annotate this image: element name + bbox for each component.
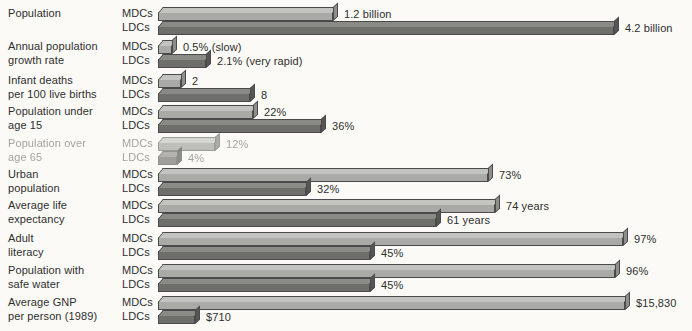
bar-front-face <box>158 269 615 278</box>
bar-end-cap <box>306 177 311 196</box>
bar-top-face <box>158 232 628 238</box>
series-label-ldcs: LDCs <box>122 21 150 35</box>
bar-mdcs <box>158 269 615 278</box>
bar-end-cap <box>195 305 200 324</box>
series-label-mdcs: MDCs <box>122 105 153 119</box>
series-label-mdcs: MDCs <box>122 40 153 54</box>
category-label: Average life expectancy <box>8 199 67 226</box>
bar-ldcs <box>158 156 177 165</box>
bar-mdcs <box>158 110 253 119</box>
series-label-mdcs: MDCs <box>122 296 153 310</box>
chart-row-annual-population-growth-rate: Annual population growth rateMDCsLDCs0.5… <box>0 39 692 71</box>
bar-top-face <box>158 137 220 143</box>
value-label-ldcs: $710 <box>206 311 231 325</box>
bar-end-cap <box>615 259 620 278</box>
category-label: Population <box>8 7 61 21</box>
bar-end-cap <box>370 273 375 292</box>
value-label-ldcs: 8 <box>261 89 267 103</box>
category-label: Population with safe water <box>8 264 84 291</box>
value-label-ldcs: 2.1% (very rapid) <box>217 55 302 69</box>
value-label-ldcs: 61 years <box>447 214 490 228</box>
bar-end-cap <box>488 163 493 182</box>
bar-top-face <box>158 119 326 125</box>
series-label-ldcs: LDCs <box>122 278 150 292</box>
bar-front-face <box>158 283 370 292</box>
bar-ldcs <box>158 187 306 196</box>
category-label: Population over age 65 <box>8 137 86 164</box>
bar-front-face <box>158 204 495 213</box>
bar-front-face <box>158 251 370 260</box>
bar-front-face <box>158 301 625 310</box>
bar-end-cap <box>625 291 630 310</box>
chart-row-infant-deaths-per-100-live-births: Infant deaths per 100 live birthsMDCsLDC… <box>0 73 692 105</box>
category-label: Population under age 15 <box>8 105 93 132</box>
chart-row-adult-literacy: Adult literacyMDCsLDCs97%45% <box>0 231 692 263</box>
bar-end-cap <box>333 2 338 21</box>
bar-ldcs <box>158 315 195 324</box>
chart-row-population: PopulationMDCsLDCs1.2 billion4.2 billion <box>0 6 692 38</box>
chart-row-urban-population: Urban populationMDCsLDCs73%32% <box>0 167 692 199</box>
bar-top-face <box>158 54 211 60</box>
value-label-ldcs: 4% <box>188 152 204 166</box>
value-label-mdcs: 1.2 billion <box>344 8 392 22</box>
bar-mdcs <box>158 12 333 21</box>
bar-front-face <box>158 315 195 324</box>
bar-ldcs <box>158 26 614 35</box>
bar-front-face <box>158 142 215 151</box>
bar-top-face <box>158 246 375 252</box>
bar-mdcs <box>158 173 488 182</box>
bar-top-face <box>158 21 619 27</box>
bar-front-face <box>158 237 623 246</box>
series-label-mdcs: MDCs <box>122 7 153 21</box>
bar-end-cap <box>495 194 500 213</box>
bar-top-face <box>158 168 493 174</box>
bar-front-face <box>158 173 488 182</box>
value-label-mdcs: $15,830 <box>636 297 676 311</box>
bar-mdcs <box>158 204 495 213</box>
bar-top-face <box>158 310 200 316</box>
series-label-ldcs: LDCs <box>122 246 150 260</box>
bar-top-face <box>158 7 338 13</box>
value-label-mdcs: 74 years <box>506 200 549 214</box>
bar-front-face <box>158 12 333 21</box>
value-label-mdcs: 2 <box>192 75 198 89</box>
value-label-ldcs: 45% <box>381 247 403 261</box>
series-label-mdcs: MDCs <box>122 199 153 213</box>
value-label-ldcs: 32% <box>317 183 339 197</box>
value-label-mdcs: 22% <box>264 106 286 120</box>
bar-end-cap <box>250 83 255 102</box>
bar-ldcs <box>158 283 370 292</box>
series-label-ldcs: LDCs <box>122 151 150 165</box>
bar-mdcs <box>158 142 215 151</box>
bar-mdcs <box>158 79 181 88</box>
value-label-mdcs: 96% <box>626 265 648 279</box>
series-label-ldcs: LDCs <box>122 88 150 102</box>
bar-top-face <box>158 264 620 270</box>
bar-ldcs <box>158 93 250 102</box>
bar-ldcs <box>158 124 321 133</box>
chart-row-population-under-age-15: Population under age 15MDCsLDCs22%36% <box>0 104 692 136</box>
category-label: Adult literacy <box>8 232 44 259</box>
bar-ldcs <box>158 218 436 227</box>
value-label-mdcs: 73% <box>499 169 521 183</box>
series-label-ldcs: LDCs <box>122 119 150 133</box>
bar-front-face <box>158 26 614 35</box>
bar-end-cap <box>177 146 182 165</box>
bar-top-face <box>158 182 311 188</box>
bar-end-cap <box>614 16 619 35</box>
category-label: Infant deaths per 100 live births <box>8 74 97 101</box>
bar-front-face <box>158 218 436 227</box>
series-label-mdcs: MDCs <box>122 168 153 182</box>
bar-mdcs <box>158 237 623 246</box>
series-label-mdcs: MDCs <box>122 137 153 151</box>
bar-end-cap <box>370 241 375 260</box>
series-label-mdcs: MDCs <box>122 232 153 246</box>
bar-front-face <box>158 110 253 119</box>
bar-top-face <box>158 296 630 302</box>
bar-top-face <box>158 278 375 284</box>
bar-front-face <box>158 156 177 165</box>
bar-front-face <box>158 187 306 196</box>
value-label-mdcs: 0.5% (slow) <box>183 41 242 55</box>
bar-mdcs <box>158 45 172 54</box>
bar-top-face <box>158 88 255 94</box>
